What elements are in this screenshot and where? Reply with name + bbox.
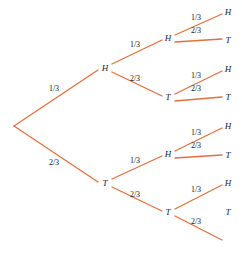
tree-node-l3: H bbox=[225, 65, 232, 74]
branch-probability-label: 2/3 bbox=[191, 27, 201, 35]
tree-node-t2a: T bbox=[165, 93, 170, 102]
branch-probability-label: 2/3 bbox=[130, 75, 140, 83]
branch-line bbox=[175, 155, 222, 158]
branch-probability-label: 2/3 bbox=[49, 159, 59, 167]
branch-line bbox=[14, 70, 98, 126]
tree-branches-svg bbox=[0, 0, 242, 253]
tree-node-t2b: T bbox=[165, 208, 170, 217]
branch-probability-label: 2/3 bbox=[191, 142, 201, 150]
tree-node-h2b: H bbox=[165, 150, 172, 159]
branch-line bbox=[14, 126, 98, 182]
branch-probability-label: 1/3 bbox=[191, 72, 201, 80]
probability-tree-diagram: HTHTHTHTHTHTHT 1/32/31/32/31/32/31/32/31… bbox=[0, 0, 242, 253]
branch-line bbox=[175, 97, 222, 101]
branch-probability-label: 1/3 bbox=[130, 41, 140, 49]
tree-node-l2: T bbox=[225, 36, 230, 45]
tree-node-l8: T bbox=[225, 208, 230, 217]
tree-node-l1: H bbox=[225, 8, 232, 17]
branch-probability-label: 1/3 bbox=[130, 157, 140, 165]
tree-node-h2a: H bbox=[165, 34, 172, 43]
tree-node-l4: T bbox=[225, 93, 230, 102]
branch-probability-label: 1/3 bbox=[49, 85, 59, 93]
tree-node-h1: H bbox=[102, 64, 109, 73]
tree-node-l6: T bbox=[225, 151, 230, 160]
branch-probability-label: 2/3 bbox=[191, 218, 201, 226]
tree-node-l5: H bbox=[225, 122, 232, 131]
tree-node-l7: H bbox=[225, 179, 232, 188]
branch-line bbox=[175, 39, 222, 42]
branch-probability-label: 1/3 bbox=[191, 14, 201, 22]
tree-node-t1: T bbox=[102, 179, 107, 188]
branch-probability-label: 2/3 bbox=[191, 85, 201, 93]
branch-lines bbox=[14, 14, 222, 240]
branch-probability-label: 1/3 bbox=[191, 129, 201, 137]
branch-probability-label: 1/3 bbox=[191, 186, 201, 194]
branch-probability-label: 2/3 bbox=[130, 191, 140, 199]
